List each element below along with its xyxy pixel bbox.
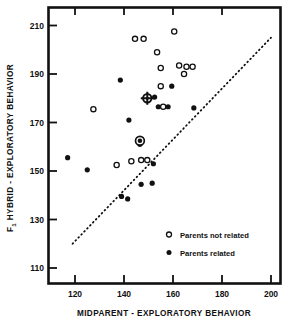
data-point-parents-related	[118, 77, 123, 82]
data-point-parents-related	[65, 155, 70, 160]
data-point-parents-not-related	[114, 162, 119, 167]
data-point-parents-not-related	[154, 50, 159, 55]
x-tick-label-200: 200	[264, 289, 278, 299]
y-tick-label-190: 190	[30, 69, 44, 79]
svg-text:F1 HYBRID - EXPLORATORY BEHAVI: F1 HYBRID - EXPLORATORY BEHAVIOR	[6, 64, 17, 232]
data-point-parents-related	[156, 104, 161, 109]
y-axis-title-rest: HYBRID - EXPLORATORY BEHAVIOR	[6, 64, 15, 223]
x-tick-label-120: 120	[68, 289, 82, 299]
data-point-parents-not-related	[91, 107, 96, 112]
data-point-parents-related	[166, 104, 171, 109]
data-point-parents-related	[191, 105, 196, 110]
data-point-parents-related	[169, 84, 174, 89]
data-point-parents-related	[150, 181, 155, 186]
data-point-parents-related	[125, 196, 130, 201]
data-point-parents-not-related	[161, 104, 166, 109]
scatter-plot-figure: 210 190 170 150 130 110 120 140 160 180 …	[0, 0, 287, 323]
data-point-parents-not-related	[181, 71, 186, 76]
y-tick-label-110: 110	[30, 263, 44, 273]
data-point-parents-not-related	[158, 65, 163, 70]
legend-marker-filled-circle	[167, 250, 172, 255]
y-tick-label-210: 210	[30, 21, 44, 31]
data-point-parents-not-related	[141, 36, 146, 41]
data-point-parents-not-related	[184, 64, 189, 69]
data-point-parents-not-related	[177, 63, 182, 68]
x-tick-label-180: 180	[215, 289, 229, 299]
data-point-parents-not-related	[190, 64, 195, 69]
mean-marker-center-dot	[146, 97, 149, 100]
data-point-parents-not-related	[145, 157, 150, 162]
y-tick-label-150: 150	[30, 166, 44, 176]
data-point-parents-not-related	[139, 157, 144, 162]
x-axis-title: MIDPARENT - EXPLORATORY BEHAVIOR	[77, 309, 251, 318]
data-point-parents-related	[126, 117, 131, 122]
y-axis-title: F1 HYBRID - EXPLORATORY BEHAVIOR	[6, 64, 17, 232]
data-point-parents-not-related	[172, 29, 177, 34]
data-point-parents-not-related	[132, 36, 137, 41]
x-tick-label-160: 160	[166, 289, 180, 299]
legend-label-parents-related: Parents related	[180, 249, 235, 258]
data-point-parents-related	[151, 161, 156, 166]
legend-label-parents-not-related: Parents not related	[180, 231, 249, 240]
data-point-parents-not-related	[129, 159, 134, 164]
data-point-parents-related	[139, 182, 144, 187]
y-tick-label-130: 130	[30, 215, 44, 225]
data-point-parents-related	[119, 194, 124, 199]
x-tick-label-140: 140	[117, 289, 131, 299]
data-point-parents-not-related	[158, 84, 163, 89]
data-point-parents-related	[85, 167, 90, 172]
highlighted-point-core	[138, 138, 143, 143]
y-tick-label-170: 170	[30, 118, 44, 128]
